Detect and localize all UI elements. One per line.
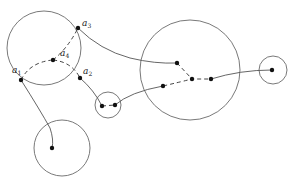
edge-r3-r2-r4 — [163, 79, 211, 86]
node-r1 — [175, 61, 179, 65]
edge-r1-r2 — [177, 63, 192, 79]
circle-bottom — [34, 120, 90, 176]
label-a3: a3 — [82, 18, 91, 29]
edge-a1-a4 — [21, 60, 53, 80]
node-a1 — [19, 78, 23, 82]
edge-a3-r1 — [78, 28, 177, 63]
label-a4: a4 — [60, 48, 69, 59]
node-bottom — [50, 146, 54, 150]
node-a2 — [78, 76, 82, 80]
node-a4 — [51, 58, 55, 62]
label-a1: a1 — [12, 65, 21, 76]
circle-large-right — [140, 20, 240, 120]
node-a3 — [76, 26, 80, 30]
node-r4 — [209, 77, 213, 81]
edge-m2-r3 — [115, 86, 163, 105]
edge-r4-fr — [211, 70, 272, 79]
edge-a1-b1 — [21, 80, 53, 148]
node-r3 — [161, 84, 165, 88]
node-far-right — [270, 68, 274, 72]
node-m2 — [113, 103, 117, 107]
graph-diagram: a1 a2 a3 a4 — [0, 0, 292, 184]
label-a2: a2 — [83, 66, 92, 77]
edge-a4-a2 — [53, 60, 80, 78]
edge-a2-m1 — [80, 78, 102, 106]
node-m1 — [100, 104, 104, 108]
node-r2 — [190, 77, 194, 81]
